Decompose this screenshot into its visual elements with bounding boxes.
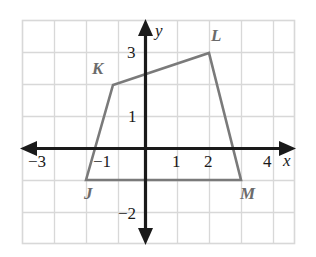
x-axis-name: x: [283, 151, 291, 171]
y-axis-name: y: [155, 21, 163, 41]
plot-border: [23, 21, 295, 244]
coordinate-plane-figure: −3 −1 1 2 4 3 1 −2 y x J K L M: [0, 0, 316, 257]
